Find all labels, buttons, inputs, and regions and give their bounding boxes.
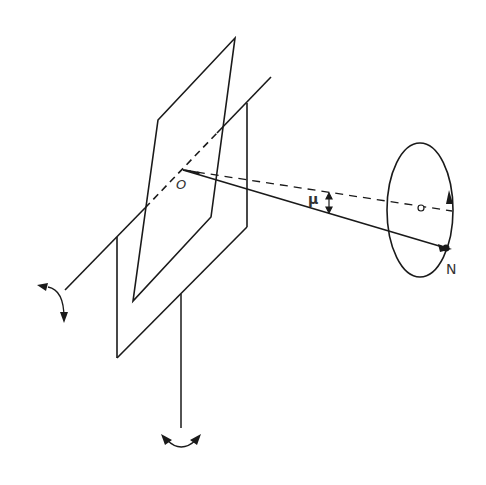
stem-rotation-arrow <box>161 434 201 447</box>
axis-rotation-arrow <box>37 283 68 323</box>
point-N-label: N <box>446 261 456 277</box>
line-O-to-N <box>183 170 446 248</box>
origin-wedge <box>183 169 200 175</box>
ellipse-center-point <box>418 205 424 211</box>
angle-mu-arrow <box>326 193 332 213</box>
precession-diagram: O μ N <box>0 0 486 485</box>
angle-mu-label: μ <box>308 191 318 207</box>
vertical-plate <box>117 103 247 358</box>
origin-label: O <box>176 177 186 192</box>
